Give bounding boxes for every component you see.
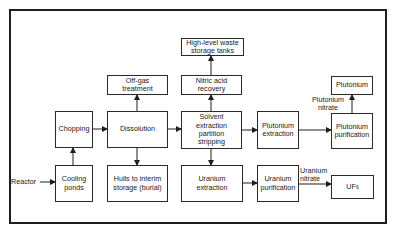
off-gas-treatment-box: Off-gas treatment <box>107 75 168 95</box>
uf6-subscript: 6 <box>356 183 359 191</box>
uranium-nitrate-label: Uranium nitrate <box>300 167 327 183</box>
plutonium-extraction-box: Plutonium extraction <box>257 111 299 149</box>
nitric-acid-recovery-box: Nitric acid recovery <box>181 75 242 95</box>
hulls-storage-box: Hulls to interim storage (burial) <box>107 165 168 202</box>
uranium-extraction-box: Uranium extraction <box>181 165 243 202</box>
uf6-box: UF6 <box>331 175 374 199</box>
dissolution-box: Dissolution <box>107 111 168 148</box>
plutonium-nitrate-label: Plutonium nitrate <box>312 96 344 112</box>
solvent-extraction-box: Solvent extraction partition stripping <box>181 111 242 149</box>
plutonium-box: Plutonium <box>331 76 373 95</box>
cooling-ponds-box: Cooling ponds <box>55 165 93 202</box>
uranium-purification-box: Uranium purification <box>257 165 299 202</box>
uf6-label: UF <box>346 183 356 191</box>
high-level-waste-box: High-level waste storage tanks <box>181 38 244 56</box>
plutonium-purification-box: Plutonium purification <box>331 113 373 149</box>
reactor-label: Reactor <box>11 178 36 186</box>
chopping-box: Chopping <box>55 111 93 148</box>
